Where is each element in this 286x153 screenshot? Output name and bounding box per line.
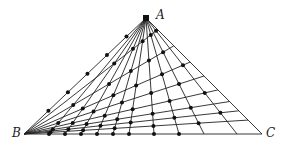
intersection-dot — [149, 33, 153, 37]
intersection-dot — [79, 132, 83, 136]
intersection-dot — [189, 106, 193, 110]
ray-from-b — [24, 102, 230, 134]
ray-from-b — [24, 90, 218, 134]
intersection-dot — [46, 109, 50, 113]
intersection-dot — [85, 122, 89, 126]
intersection-dot — [111, 93, 115, 97]
intersection-dot — [134, 83, 138, 87]
intersection-dot — [218, 111, 222, 115]
intersection-dot — [172, 116, 176, 120]
intersection-dot — [141, 39, 145, 43]
intersection-dot — [160, 72, 164, 76]
intersection-dot — [147, 58, 151, 62]
intersection-dot — [131, 107, 135, 111]
intersection-dot — [161, 50, 165, 54]
intersection-dot — [131, 47, 135, 51]
intersection-dot — [95, 132, 99, 136]
ray-from-b — [24, 62, 190, 134]
intersection-dot — [51, 127, 55, 131]
intersection-dot — [181, 63, 185, 67]
intersection-dot — [56, 121, 60, 125]
apex-marker — [143, 15, 149, 21]
intersection-dot — [197, 121, 201, 125]
intersection-dot — [66, 90, 70, 94]
intersection-dot — [129, 69, 133, 73]
intersection-dot — [105, 53, 109, 57]
intersection-dot — [124, 35, 128, 39]
intersection-dot — [168, 99, 172, 103]
intersection-dot — [115, 117, 119, 121]
intersection-dot — [177, 82, 181, 86]
ray-from-a — [113, 18, 146, 134]
intersection-dot — [112, 61, 116, 65]
intersection-dot — [177, 132, 181, 136]
diagram-canvas — [0, 0, 286, 153]
intersection-dot — [120, 100, 124, 104]
triangle-diagram: A B C — [0, 0, 286, 153]
intersection-dot — [154, 29, 158, 33]
intersection-dot — [103, 114, 107, 118]
intersection-dot — [149, 91, 153, 95]
intersection-dot — [113, 126, 117, 130]
intersection-dot — [63, 132, 67, 136]
intersection-dot — [152, 132, 156, 136]
intersection-dot — [107, 82, 111, 86]
intersection-dot — [81, 107, 85, 111]
label-b: B — [12, 126, 21, 140]
ray-from-b — [24, 76, 204, 134]
intersection-dot — [92, 110, 96, 114]
intersection-dot — [127, 132, 131, 136]
intersection-dot — [85, 72, 89, 76]
intersection-dot — [203, 91, 207, 95]
intersection-dot — [71, 103, 75, 107]
label-c: C — [266, 126, 275, 140]
intersection-dot — [151, 124, 155, 128]
ray-from-b — [24, 30, 158, 134]
intersection-dot — [66, 127, 70, 131]
ray-from-a — [146, 18, 237, 134]
intersection-dot — [98, 124, 102, 128]
intersection-dot — [151, 112, 155, 116]
label-a: A — [156, 8, 165, 22]
intersection-dot — [111, 132, 115, 136]
intersection-dot — [129, 120, 133, 124]
intersection-dot — [71, 121, 75, 125]
intersection-dot — [47, 132, 51, 136]
intersection-dot — [81, 128, 85, 132]
